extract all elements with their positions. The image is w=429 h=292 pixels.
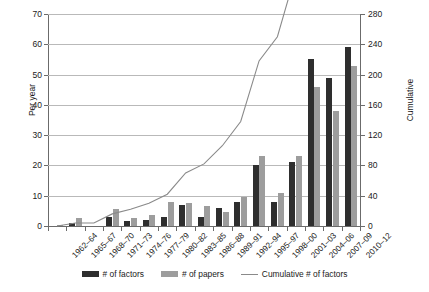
- y-axis-right-tick-mark: [361, 226, 365, 227]
- y-axis-right-tick-label: 0: [368, 222, 394, 230]
- y-axis-right-tick-label: 240: [368, 40, 394, 48]
- x-axis-tick-mark: [158, 227, 159, 231]
- legend-line-icon: [241, 274, 258, 275]
- legend-item: Cumulative # of factors: [241, 269, 348, 279]
- legend-label: # of papers: [182, 269, 224, 279]
- y-axis-right-tick-mark: [361, 44, 365, 45]
- x-axis-tick-mark: [195, 227, 196, 231]
- y-axis-left-tick-label: 70: [18, 10, 42, 18]
- legend-swatch-icon: [161, 271, 178, 277]
- y-axis-left-tick-label: 60: [18, 40, 42, 48]
- x-axis-tick-mark: [287, 227, 288, 231]
- y-axis-left-tick-mark: [44, 196, 48, 197]
- x-axis-tick-mark: [305, 227, 306, 231]
- y-axis-right-tick-label: 280: [368, 10, 394, 18]
- y-axis-left-tick-mark: [44, 75, 48, 76]
- x-axis-tick-mark: [85, 227, 86, 231]
- legend-item: # of papers: [161, 269, 224, 279]
- y-axis-right-tick-mark: [361, 14, 365, 15]
- plot-area: [48, 14, 360, 226]
- legend-swatch-icon: [82, 271, 99, 277]
- y-axis-right-tick-mark: [361, 105, 365, 106]
- y-axis-right-tick-label: 40: [368, 192, 394, 200]
- x-axis-tick-mark: [176, 227, 177, 231]
- x-axis-tick-mark: [48, 227, 49, 231]
- cumulative-line: [48, 14, 360, 226]
- y-axis-left-tick-mark: [44, 135, 48, 136]
- chart-legend: # of factors# of papersCumulative # of f…: [0, 269, 429, 279]
- y-axis-right-tick-label: 200: [368, 71, 394, 79]
- y-axis-right-tick-mark: [361, 165, 365, 166]
- y-axis-right-tick-label: 80: [368, 161, 394, 169]
- y-axis-left-tick-label: 0: [18, 222, 42, 230]
- x-axis-tick-mark: [121, 227, 122, 231]
- legend-item: # of factors: [82, 269, 144, 279]
- y-axis-left-tick-mark: [44, 165, 48, 166]
- y-axis-left-tick-label: 10: [18, 192, 42, 200]
- legend-label: Cumulative # of factors: [262, 269, 348, 279]
- x-axis-tick-mark: [250, 227, 251, 231]
- x-axis-tick-mark: [232, 227, 233, 231]
- y-axis-right-tick-label: 120: [368, 131, 394, 139]
- chart-figure: 010203040506070 04080120160200240280 196…: [0, 0, 429, 292]
- x-axis-tick-mark: [140, 227, 141, 231]
- y-axis-left-tick-label: 20: [18, 161, 42, 169]
- x-axis-tick-mark: [342, 227, 343, 231]
- y-axis-right-tick-mark: [361, 135, 365, 136]
- x-axis-tick-mark: [66, 227, 67, 231]
- y-axis-right-title: Cumulative: [405, 70, 415, 130]
- y-axis-left-tick-mark: [44, 44, 48, 45]
- x-axis-tick-mark: [323, 227, 324, 231]
- y-axis-right-tick-mark: [361, 196, 365, 197]
- y-axis-left-tick-label: 30: [18, 131, 42, 139]
- x-axis-tick-mark: [360, 227, 361, 231]
- x-axis-tick-mark: [268, 227, 269, 231]
- gridline: [48, 226, 360, 227]
- y-axis-left-title: Per year: [27, 70, 37, 130]
- x-axis-tick-mark: [213, 227, 214, 231]
- y-axis-left-tick-mark: [44, 105, 48, 106]
- x-axis-tick-mark: [103, 227, 104, 231]
- y-axis-right-tick-mark: [361, 75, 365, 76]
- y-axis-left-tick-mark: [44, 14, 48, 15]
- y-axis-right-tick-label: 160: [368, 101, 394, 109]
- legend-label: # of factors: [103, 269, 144, 279]
